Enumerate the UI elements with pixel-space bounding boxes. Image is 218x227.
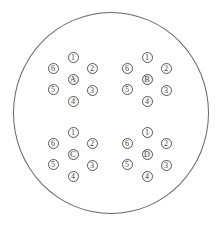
hole-c-3: 3 [87,160,98,171]
hole-d-6: 6 [122,138,133,149]
hole-a-5: 5 [48,84,59,95]
hole-d-5: 5 [122,159,133,170]
center-hole-a: A [68,74,79,85]
hole-b-2: 2 [161,63,172,74]
hole-a-2: 2 [87,63,98,74]
center-hole-b: B [142,74,153,85]
hole-c-4: 4 [68,171,79,182]
center-hole-d: D [142,149,153,160]
diagram-canvas: A123456B123456C123456D123456 [0,0,218,227]
hole-b-1: 1 [142,52,153,63]
hole-d-2: 2 [161,138,172,149]
hole-c-5: 5 [48,159,59,170]
hole-c-2: 2 [87,138,98,149]
hole-d-4: 4 [142,171,153,182]
hole-a-1: 1 [68,52,79,63]
hole-d-3: 3 [161,160,172,171]
outer-circle [13,12,209,214]
hole-b-3: 3 [161,85,172,96]
hole-b-5: 5 [122,84,133,95]
hole-a-3: 3 [87,85,98,96]
hole-c-1: 1 [68,127,79,138]
hole-b-4: 4 [142,96,153,107]
hole-a-4: 4 [68,96,79,107]
hole-b-6: 6 [122,63,133,74]
hole-c-6: 6 [48,138,59,149]
hole-a-6: 6 [48,63,59,74]
center-hole-c: C [68,149,79,160]
hole-d-1: 1 [142,127,153,138]
